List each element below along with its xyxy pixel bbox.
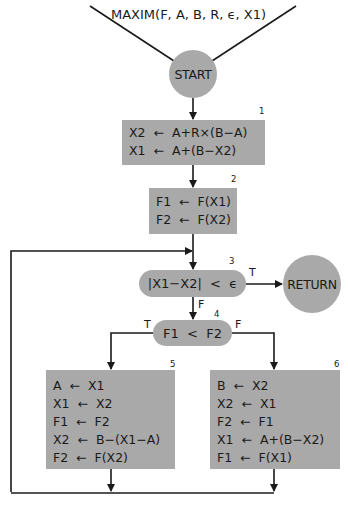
decision4-condition: F1 < F2: [163, 326, 222, 341]
process-box-5: A ← X1 X1 ← X2 F1 ← F2 X2 ← B−(X1−A) F2 …: [46, 370, 175, 469]
box5-line-5: F2 ← F(X2): [53, 449, 175, 467]
box2-line-2: F2 ← F(X2): [156, 211, 237, 229]
box6-line-1: B ← X2: [217, 377, 340, 395]
step-number-4: 4: [214, 309, 219, 319]
box1-line-2: X1 ← A+(B−X2): [129, 142, 265, 160]
process-box-2: F1 ← F(X1) F2 ← F(X2): [149, 188, 237, 234]
box6-line-4: X1 ← A+(B−X2): [217, 431, 340, 449]
box5-line-3: F1 ← F2: [53, 413, 175, 431]
box6-line-5: F1 ← F(X1): [217, 449, 340, 467]
return-label: RETURN: [287, 277, 337, 292]
start-node: START: [169, 50, 217, 98]
return-node: RETURN: [283, 255, 341, 313]
decision3-condition: |X1−X2| < ϵ: [148, 276, 237, 291]
decision-4: F1 < F2: [153, 320, 232, 346]
box5-line-4: X2 ← B−(X1−A): [53, 431, 175, 449]
box1-line-1: X2 ← A+R×(B−A): [129, 124, 265, 142]
box2-line-1: F1 ← F(X1): [156, 193, 237, 211]
step-number-6: 6: [334, 359, 339, 369]
start-label: START: [174, 67, 211, 82]
decision-3: |X1−X2| < ϵ: [139, 270, 246, 297]
step-number-2: 2: [231, 174, 236, 184]
step-number-1: 1: [259, 106, 264, 116]
box5-line-1: A ← X1: [53, 377, 175, 395]
box6-line-2: X2 ← X1: [217, 395, 340, 413]
process-box-1: X2 ← A+R×(B−A) X1 ← A+(B−X2): [122, 120, 265, 165]
box6-line-3: F2 ← F1: [217, 413, 340, 431]
step-number-3: 3: [229, 256, 234, 266]
decision3-true-label: T: [249, 266, 256, 279]
decision3-false-label: F: [198, 298, 204, 311]
function-signature: MAXIM(F, A, B, R, ϵ, X1): [111, 7, 266, 22]
decision4-true-label: T: [144, 318, 151, 331]
step-number-5: 5: [170, 359, 175, 369]
process-box-6: B ← X2 X2 ← X1 F2 ← F1 X1 ← A+(B−X2) F1 …: [210, 370, 340, 469]
box5-line-2: X1 ← X2: [53, 395, 175, 413]
decision4-false-label: F: [235, 318, 241, 331]
